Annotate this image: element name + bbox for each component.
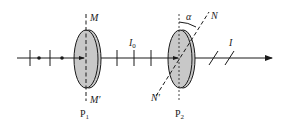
label-n-prime: N′ [150,92,161,103]
label-alpha: α [186,11,192,22]
polarization-diagram: M M′ P1 I0 α N N′ P2 I [0,0,286,124]
label-m: M [89,12,99,23]
label-p1: P1 [80,108,90,121]
label-i0: I0 [128,37,136,50]
label-n: N [210,10,219,21]
angle-arc-alpha [179,22,196,27]
label-m-prime: M′ [89,94,101,105]
polarizer-p2 [156,12,209,101]
label-i: I [228,37,233,48]
label-p2: P2 [175,108,185,121]
polarization-dot [37,56,41,60]
polarizer-p1 [74,14,101,101]
polarization-dot [60,56,64,60]
polarizer-p2-face [168,30,192,88]
